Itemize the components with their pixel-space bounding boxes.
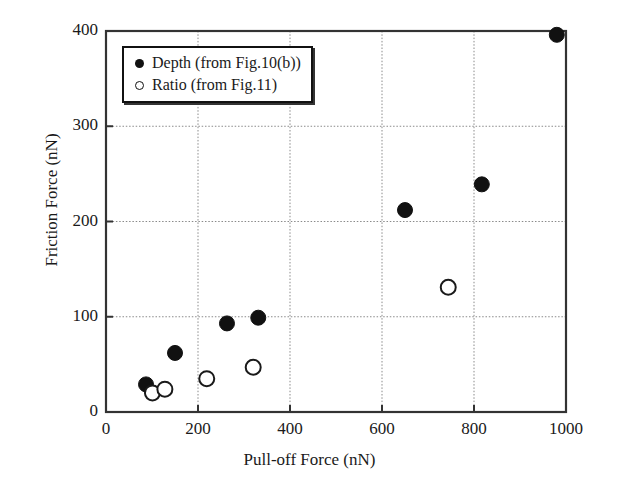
filled-circle-icon [131, 59, 147, 68]
x-tick-label: 600 [352, 419, 412, 439]
data-point [474, 177, 489, 192]
data-point [398, 203, 413, 218]
x-tick-label: 400 [260, 419, 320, 439]
x-axis-title: Pull-off Force (nN) [0, 450, 619, 470]
legend: Depth (from Fig.10(b)) Ratio (from Fig.1… [122, 46, 313, 103]
legend-item-label: Depth (from Fig.10(b)) [152, 54, 301, 72]
data-point [168, 345, 183, 360]
legend-item-label: Ratio (from Fig.11) [152, 76, 277, 94]
y-axis-title: Friction Force (nN) [42, 133, 61, 266]
data-point [199, 371, 214, 386]
y-axis-title-wrapper: Friction Force (nN) [42, 10, 62, 390]
data-point [157, 382, 172, 397]
x-tick-label: 200 [168, 419, 228, 439]
x-tick-label: 1000 [536, 419, 596, 439]
data-point [441, 280, 456, 295]
y-tick-label: 0 [38, 401, 98, 421]
x-tick-label: 0 [76, 419, 136, 439]
scatter-chart-figure: 0100200300400 02004006008001000 Pull-off… [0, 0, 619, 485]
data-point [219, 316, 234, 331]
open-circle-icon [131, 81, 147, 90]
legend-item-depth: Depth (from Fig.10(b)) [131, 52, 301, 74]
data-point [246, 360, 261, 375]
legend-item-ratio: Ratio (from Fig.11) [131, 74, 301, 96]
x-tick-label: 800 [444, 419, 504, 439]
data-point [549, 27, 564, 42]
data-point [251, 310, 266, 325]
